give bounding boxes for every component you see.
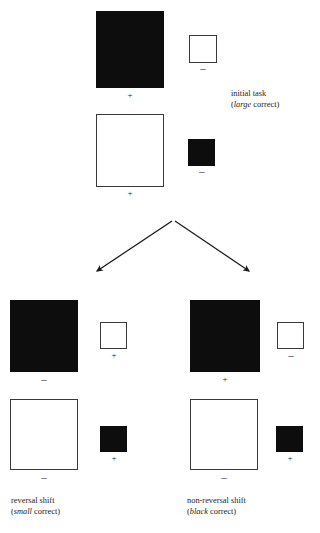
discrimination-shift-figure: discrimination-shift learning paradigm +… bbox=[0, 0, 320, 533]
non-reversal-shift-row1-large-black-square bbox=[190, 300, 260, 372]
reversal-shift-caption-rest: correct) bbox=[32, 507, 60, 516]
initial-task-caption: initial task (large correct) bbox=[231, 88, 279, 111]
non-reversal-shift-caption-line1: non-reversal shift bbox=[187, 496, 246, 505]
initial-task-caption-rest: correct) bbox=[251, 100, 279, 109]
initial-task-caption-line1: initial task bbox=[231, 89, 266, 98]
non-reversal-shift-row2-small-sign: + bbox=[283, 454, 297, 463]
non-reversal-shift-row2-large-sign: – bbox=[217, 473, 231, 482]
initial-task-row2-large-sign: + bbox=[123, 189, 137, 198]
non-reversal-shift-row2-large-white-square bbox=[190, 399, 258, 470]
reversal-shift-row1-small-sign: + bbox=[107, 351, 121, 360]
initial-task-row1-small-white-square bbox=[189, 35, 217, 63]
initial-task-row1-large-black-square bbox=[96, 11, 164, 88]
non-reversal-shift-caption: non-reversal shift (black correct) bbox=[187, 495, 246, 518]
initial-task-row2-small-black-square bbox=[188, 139, 215, 166]
reversal-shift-row2-small-black-square bbox=[100, 426, 127, 452]
reversal-shift-row1-large-black-square bbox=[10, 300, 78, 372]
non-reversal-shift-row1-small-sign: – bbox=[284, 351, 298, 360]
non-reversal-shift-caption-emphasis: black bbox=[190, 507, 208, 516]
reversal-shift-row2-large-sign: – bbox=[37, 473, 51, 482]
non-reversal-shift-row1-large-sign: + bbox=[218, 375, 232, 384]
reversal-shift-row1-small-white-square bbox=[100, 322, 127, 349]
initial-task-row1-large-sign: + bbox=[123, 91, 137, 100]
non-reversal-shift-caption-rest: correct) bbox=[208, 507, 236, 516]
reversal-shift-row2-large-white-square bbox=[10, 399, 78, 470]
arrow-to-non-reversal-shift bbox=[175, 221, 249, 271]
arrow-to-reversal-shift bbox=[97, 221, 172, 271]
reversal-shift-caption: reversal shift (small correct) bbox=[11, 495, 60, 518]
reversal-shift-row2-small-sign: + bbox=[107, 454, 121, 463]
initial-task-row1-small-sign: – bbox=[196, 64, 210, 73]
reversal-shift-caption-line1: reversal shift bbox=[11, 496, 55, 505]
initial-task-row2-small-sign: – bbox=[195, 167, 209, 176]
initial-task-caption-emphasis: large bbox=[234, 100, 251, 109]
initial-task-row2-large-white-square bbox=[96, 114, 164, 187]
reversal-shift-caption-emphasis: small bbox=[14, 507, 32, 516]
non-reversal-shift-row2-small-black-square bbox=[276, 426, 303, 452]
reversal-shift-row1-large-sign: – bbox=[37, 375, 51, 384]
non-reversal-shift-row1-small-white-square bbox=[277, 322, 304, 349]
